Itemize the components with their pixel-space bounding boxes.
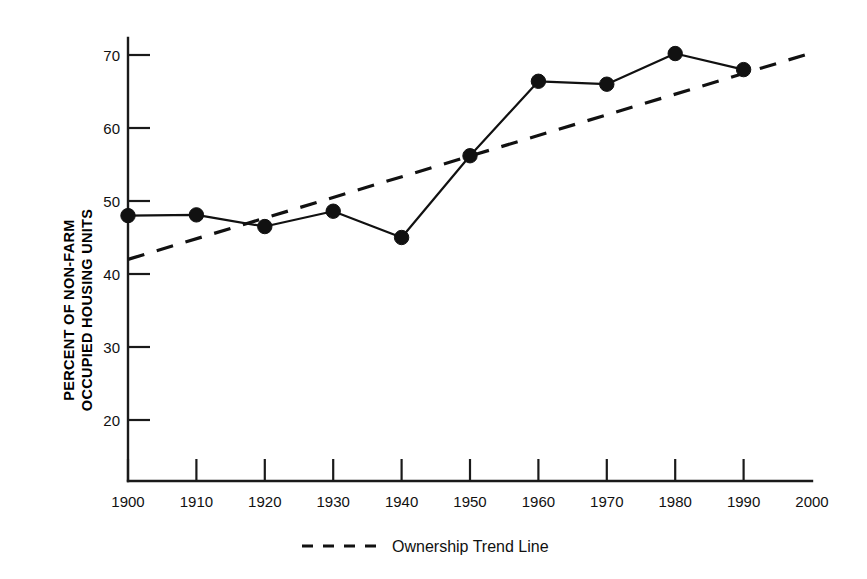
- y-axis-ticks: [128, 55, 150, 420]
- x-tick-label-1950: 1950: [453, 493, 486, 510]
- y-axis-tick-labels: 70 60 50 40 30 20: [103, 47, 120, 429]
- data-point-1900: [121, 208, 135, 222]
- x-axis-tick-labels: 1900 1910 1920 1930 1940 1950 1960 1970 …: [111, 493, 828, 510]
- y-axis-label-line2: OCCUPIED HOUSING UNITS: [79, 209, 95, 411]
- data-point-1950: [463, 149, 477, 163]
- x-tick-label-1900: 1900: [111, 493, 144, 510]
- x-tick-label-1930: 1930: [317, 493, 350, 510]
- x-tick-label-1920: 1920: [248, 493, 281, 510]
- y-axis-label-line1: PERCENT OF NON-FARM: [61, 219, 77, 400]
- y-tick-label-20: 20: [103, 412, 120, 429]
- line-chart: PERCENT OF NON-FARM OCCUPIED HOUSING UNI…: [0, 0, 867, 579]
- chart-figure: PERCENT OF NON-FARM OCCUPIED HOUSING UNI…: [0, 0, 867, 579]
- y-tick-label-50: 50: [103, 193, 120, 210]
- y-axis-label: PERCENT OF NON-FARM OCCUPIED HOUSING UNI…: [61, 209, 95, 411]
- x-axis-ticks: [128, 459, 744, 481]
- data-point-1990: [736, 62, 750, 76]
- homeownership-series-markers: [121, 46, 751, 244]
- y-tick-label-30: 30: [103, 339, 120, 356]
- y-tick-label-70: 70: [103, 47, 120, 64]
- y-tick-label-60: 60: [103, 120, 120, 137]
- x-tick-label-1980: 1980: [659, 493, 692, 510]
- x-tick-label-1960: 1960: [522, 493, 555, 510]
- x-tick-label-1910: 1910: [180, 493, 213, 510]
- data-point-1960: [531, 74, 545, 88]
- y-tick-label-40: 40: [103, 266, 120, 283]
- data-point-1940: [394, 230, 408, 244]
- data-point-1930: [326, 204, 340, 218]
- data-point-1980: [668, 46, 682, 60]
- data-point-1970: [600, 77, 614, 91]
- data-point-1920: [258, 219, 272, 233]
- homeownership-series-line: [128, 54, 744, 238]
- x-tick-label-1940: 1940: [385, 493, 418, 510]
- data-point-1910: [189, 208, 203, 222]
- x-tick-label-1990: 1990: [727, 493, 760, 510]
- x-tick-label-1970: 1970: [590, 493, 623, 510]
- axes: [128, 38, 812, 481]
- chart-legend: Ownership Trend Line: [302, 538, 549, 555]
- legend-label-ownership-trend-line: Ownership Trend Line: [392, 538, 549, 555]
- x-tick-label-2000: 2000: [795, 493, 828, 510]
